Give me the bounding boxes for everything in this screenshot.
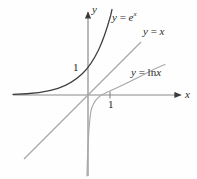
exponential-curve — [13, 10, 112, 95]
identity-equals: = — [151, 25, 157, 37]
exp-exponent: x — [134, 10, 137, 18]
exp-lhs: y — [112, 11, 117, 23]
logarithm-curve — [87, 65, 165, 177]
log-function-name: ln — [148, 66, 157, 78]
curve-label-identity: y = x — [143, 26, 165, 37]
log-equals: = — [139, 66, 145, 78]
plot-canvas — [0, 0, 197, 179]
exp-equals: = — [120, 11, 126, 23]
y-axis-tick-label-1: 1 — [73, 62, 79, 73]
graph-figure: y = ex y = x y = lnx y x 1 1 — [0, 0, 197, 179]
log-lhs: y — [131, 66, 136, 78]
identity-lhs: y — [143, 25, 148, 37]
curve-label-logarithm: y = lnx — [131, 67, 161, 78]
curve-label-exponential: y = ex — [112, 12, 137, 23]
log-argument: x — [156, 66, 161, 78]
identity-rhs: x — [160, 25, 165, 37]
y-axis-label: y — [92, 4, 97, 15]
identity-line-curve — [24, 42, 141, 159]
x-axis-label: x — [185, 89, 190, 100]
x-axis-tick-label-1: 1 — [108, 99, 114, 110]
